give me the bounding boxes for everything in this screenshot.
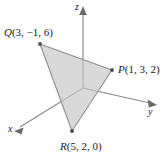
vertex-dot-P — [110, 68, 114, 72]
point-label-P-coords: (1, 3, 2) — [125, 63, 160, 75]
z-axis-arrowhead — [79, 6, 87, 15]
figure-canvas — [0, 0, 166, 161]
triangle-PQR-fill — [40, 44, 112, 131]
coordinate-space-figure: Q(3, −1, 6) P(1, 3, 2) R(5, 2, 0) x y z — [0, 0, 166, 161]
point-label-R-coords: (5, 2, 0) — [67, 140, 102, 152]
axis-label-x: x — [8, 124, 12, 134]
vertex-dot-R — [70, 129, 74, 133]
axis-label-y: y — [148, 107, 152, 117]
axis-label-z: z — [75, 2, 79, 12]
point-label-Q: Q(3, −1, 6) — [4, 27, 53, 38]
point-label-Q-coords: (3, −1, 6) — [12, 26, 53, 38]
vertex-dot-Q — [38, 42, 42, 46]
point-label-P: P(1, 3, 2) — [118, 64, 160, 75]
point-label-R-name: R — [60, 140, 67, 152]
point-label-P-name: P — [118, 63, 125, 75]
point-label-R: R(5, 2, 0) — [60, 141, 102, 152]
point-label-Q-name: Q — [4, 26, 12, 38]
x-axis-arrowhead — [14, 127, 24, 134]
